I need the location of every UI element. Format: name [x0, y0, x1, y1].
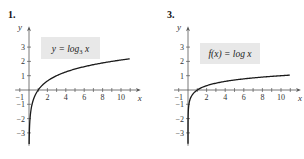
y-tick-label: 2 — [180, 57, 184, 66]
figure: 1.−1246810−3−2−1123xyy = log3 x3.−124681… — [0, 0, 304, 159]
series-curve — [188, 75, 290, 143]
x-tick-label: 10 — [117, 93, 125, 102]
x-tick-label: 6 — [242, 93, 246, 102]
y-axis-label: y — [176, 22, 181, 32]
x-tick-label: 8 — [260, 93, 264, 102]
y-tick-label: −2 — [175, 115, 184, 124]
y-axis-label: y — [17, 22, 22, 32]
y-tick-label: −3 — [175, 129, 184, 138]
y-tick-label: 1 — [21, 72, 25, 81]
y-tick-label: −1 — [16, 100, 25, 109]
x-tick-label: 4 — [64, 93, 68, 102]
series-curve — [29, 59, 130, 144]
x-tick-label: 8 — [101, 93, 105, 102]
chart-panel-2: 3.−1246810−3−2−1123xyf(x) = log x — [167, 9, 302, 146]
equation-label: y = log3 x — [51, 44, 90, 56]
y-tick-label: 3 — [21, 43, 25, 52]
equation-label: f(x) = log x — [208, 49, 252, 60]
x-tick-label: 6 — [82, 93, 86, 102]
problem-number: 1. — [8, 9, 16, 20]
y-tick-label: 2 — [21, 57, 25, 66]
x-tick-label: 10 — [277, 93, 285, 102]
y-tick-label: 3 — [180, 43, 184, 52]
x-axis-label: x — [297, 93, 302, 103]
y-tick-label: −2 — [16, 115, 25, 124]
x-tick-label: 2 — [205, 93, 209, 102]
x-tick-label: 2 — [45, 93, 49, 102]
x-axis-label: x — [137, 93, 142, 103]
y-tick-label: 1 — [180, 72, 184, 81]
y-tick-label: −3 — [16, 129, 25, 138]
problem-number: 3. — [167, 9, 175, 20]
x-tick-label: 4 — [223, 93, 227, 102]
y-tick-label: −1 — [175, 100, 184, 109]
chart-panel-1: 1.−1246810−3−2−1123xyy = log3 x — [8, 9, 142, 146]
